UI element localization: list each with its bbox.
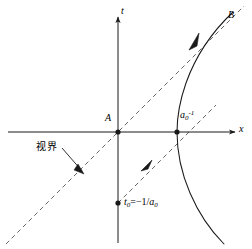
x-axis-label: x bbox=[239, 124, 243, 134]
horizon-label: 视界 bbox=[36, 138, 57, 153]
spacetime-diagram bbox=[0, 0, 252, 249]
vertex-point bbox=[174, 129, 179, 134]
origin-point-A bbox=[115, 129, 120, 134]
point-b-label: B bbox=[228, 10, 234, 20]
point-a-label: A bbox=[105, 113, 111, 123]
t0-point bbox=[115, 200, 120, 205]
t0-a-subscript: 0 bbox=[154, 201, 158, 209]
t-axis-label: t bbox=[121, 6, 124, 16]
t0-equation: =−1/ bbox=[130, 196, 149, 207]
vertex-label: a0-1 bbox=[180, 110, 194, 122]
vertex-superscript: -1 bbox=[189, 109, 195, 117]
t0-label: t0=−1/a0 bbox=[124, 197, 158, 209]
